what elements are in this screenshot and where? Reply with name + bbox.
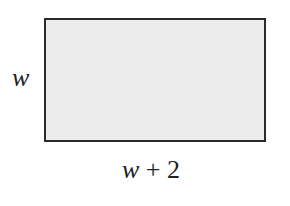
- plus-operator: +: [146, 155, 161, 184]
- width-label: w: [12, 65, 29, 91]
- length-label: w + 2: [122, 157, 180, 183]
- shaded-rectangle: [44, 18, 266, 142]
- width-variable: w: [12, 63, 29, 92]
- length-constant: 2: [167, 155, 180, 184]
- length-variable: w: [122, 155, 139, 184]
